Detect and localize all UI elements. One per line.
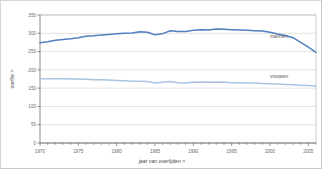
x-tick-label: 1980 xyxy=(112,149,123,154)
x-tick-label: 1975 xyxy=(73,149,84,154)
x-axis-title: jaar van overlijden > xyxy=(138,158,186,164)
series-label-vrouwen: vrouwen xyxy=(270,74,288,79)
x-axis xyxy=(40,143,316,146)
y-tick-labels: 050100150200250300350 xyxy=(28,13,36,146)
x-tick-label: 1990 xyxy=(188,149,199,154)
series-line-mannen xyxy=(40,29,316,52)
y-tick-label: 300 xyxy=(28,31,36,36)
series-line-vrouwen xyxy=(40,79,316,86)
y-tick-label: 200 xyxy=(28,68,36,73)
series-labels: mannenvrouwen xyxy=(270,34,288,79)
y-tick-label: 150 xyxy=(28,86,36,91)
y-tick-label: 350 xyxy=(28,13,36,18)
line-chart: 050100150200250300350 197019751980198519… xyxy=(1,1,322,169)
y-tick-label: 0 xyxy=(33,141,36,146)
series-label-mannen: mannen xyxy=(270,34,288,39)
chart-container: 050100150200250300350 197019751980198519… xyxy=(0,0,322,169)
x-tick-label: 1995 xyxy=(227,149,238,154)
x-tick-label: 2005 xyxy=(303,149,314,154)
x-tick-label: 2000 xyxy=(265,149,276,154)
y-tick-label: 250 xyxy=(28,49,36,54)
x-tick-labels: 19701975198019851990199520002005 xyxy=(35,149,314,154)
x-tick-label: 1970 xyxy=(35,149,46,154)
y-tick-label: 50 xyxy=(31,122,37,127)
x-tick-label: 1985 xyxy=(150,149,161,154)
y-axis-title: sterfte > xyxy=(9,70,15,89)
y-tick-label: 100 xyxy=(28,104,36,109)
